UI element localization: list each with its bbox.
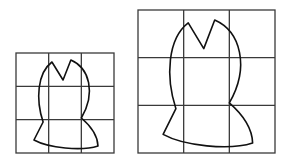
grid-border — [16, 53, 114, 153]
grid-enlargement-diagram — [0, 0, 291, 164]
grid-border — [138, 10, 275, 153]
garment-outline — [163, 20, 253, 147]
small-grid — [16, 53, 114, 153]
large-grid — [138, 10, 275, 153]
garment-outline — [34, 60, 98, 149]
